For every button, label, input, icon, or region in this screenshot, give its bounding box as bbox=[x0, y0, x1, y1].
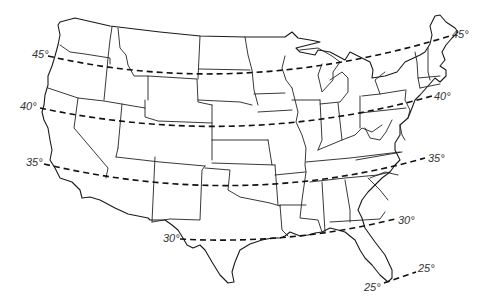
lat-25-right-label: 25° bbox=[417, 262, 435, 274]
lat-30-left-label: 30° bbox=[163, 232, 180, 244]
lat-35-left-label: 35° bbox=[26, 156, 43, 168]
lat-45-right-label: 45° bbox=[452, 28, 469, 40]
lat-35-right-label: 35° bbox=[428, 152, 445, 164]
us-map: 45° 45° 40° 40° 35° 35° 30° 30° 25° 25° bbox=[0, 0, 493, 300]
lat-40-right-label: 40° bbox=[434, 90, 451, 102]
lat-45-left-label: 45° bbox=[32, 48, 49, 60]
lat-30-right-label: 30° bbox=[398, 214, 415, 226]
lat-40-left-label: 40° bbox=[20, 100, 37, 112]
us-outline bbox=[42, 15, 458, 283]
lat-25-left-label: 25° bbox=[363, 281, 381, 293]
